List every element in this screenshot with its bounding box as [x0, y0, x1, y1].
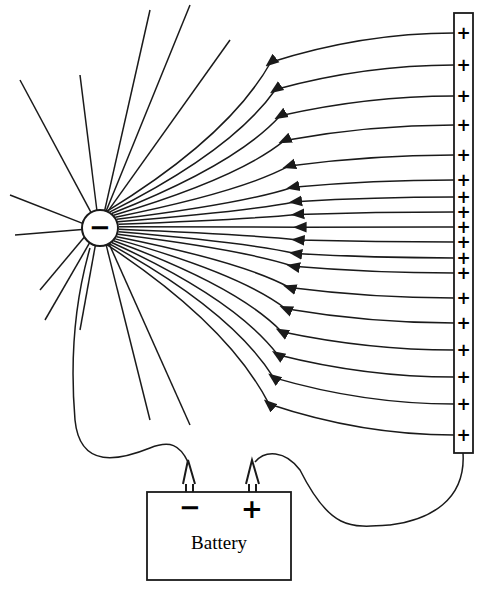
field-line — [105, 10, 150, 211]
plate-plus-sign: + — [456, 145, 470, 165]
field-line — [119, 229, 454, 242]
field-line — [118, 197, 454, 222]
field-line — [115, 155, 454, 217]
battery-positive-sign: + — [241, 494, 263, 524]
field-line — [10, 195, 83, 223]
field-line — [109, 244, 190, 425]
field-line — [119, 232, 454, 258]
plate-plus-sign: + — [456, 367, 470, 387]
plate-plus-sign: + — [456, 425, 470, 445]
sphere-charge-sign: − — [89, 212, 111, 242]
field-diagram: ++++++++++++++++++ − − + Battery — [0, 0, 487, 591]
plate-plus-sign: + — [456, 263, 470, 283]
field-line — [114, 125, 454, 215]
plate-plus-sign: + — [456, 86, 470, 106]
field-line — [110, 244, 454, 404]
field-line — [117, 180, 454, 219]
field-line — [20, 80, 91, 212]
field-line — [45, 243, 90, 320]
battery-negative-sign: − — [179, 492, 201, 522]
positive-plate: ++++++++++++++++++ — [454, 13, 473, 453]
plate-plus-sign: + — [456, 115, 470, 135]
field-line — [15, 230, 82, 235]
battery-label: Battery — [191, 532, 247, 553]
negative-clip — [183, 460, 195, 492]
field-line — [80, 75, 97, 210]
field-line — [112, 96, 454, 214]
field-line — [106, 245, 150, 420]
field-line — [118, 234, 454, 273]
plate-plus-sign: + — [456, 288, 470, 308]
positive-clip — [246, 460, 259, 492]
plate-plus-sign: + — [456, 55, 470, 75]
plate-plus-sign: + — [456, 23, 470, 43]
field-line — [106, 5, 190, 211]
plate-plus-sign: + — [456, 340, 470, 360]
field-lines — [10, 5, 454, 435]
field-line — [108, 40, 230, 212]
field-line — [107, 33, 454, 211]
plate-plus-sign: + — [456, 394, 470, 414]
plate-plus-sign: + — [456, 313, 470, 333]
